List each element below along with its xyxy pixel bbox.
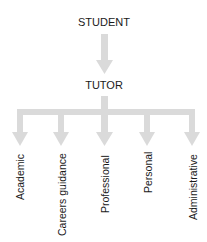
arrow-head-personal-icon [139, 132, 155, 146]
arrow-head-academic-icon [12, 132, 28, 146]
leaf-professional: Professional [99, 155, 111, 213]
leaf-careers-guidance: Careers guidance [56, 153, 68, 236]
arrow-head-professional-icon [96, 132, 113, 146]
arrow-head-administrative-icon [184, 132, 200, 146]
leaf-academic: Academic [14, 154, 26, 200]
arrow-head-student-tutor-icon [96, 60, 113, 74]
arrow-shaft-student-tutor [101, 34, 108, 62]
tutor-node: TUTOR [64, 79, 144, 91]
arrow-head-careers-icon [53, 132, 69, 146]
leaf-administrative: Administrative [187, 154, 199, 220]
leaf-personal: Personal [142, 152, 154, 193]
